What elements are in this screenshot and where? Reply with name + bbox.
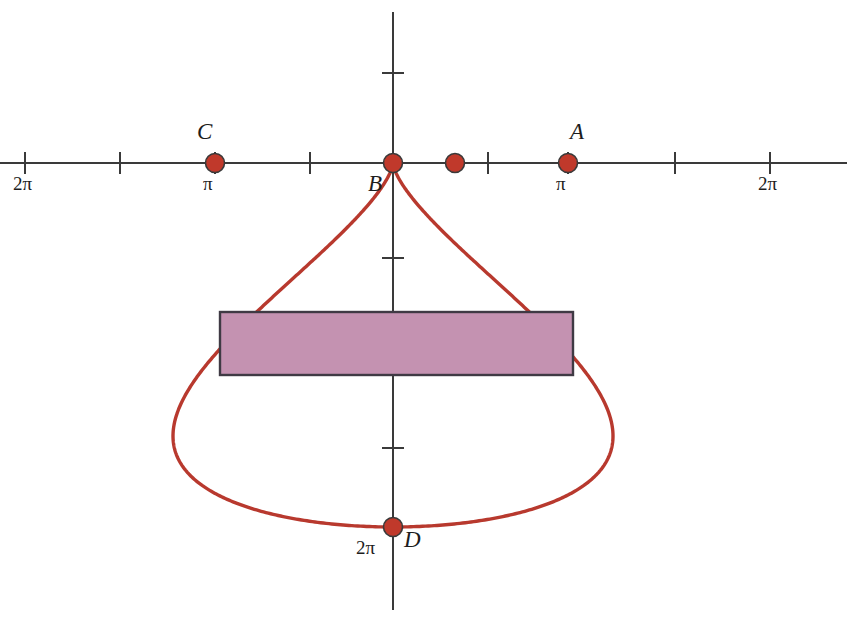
point-label-a: A [570, 120, 584, 143]
point-label-c: C [197, 120, 212, 143]
x-tick-label-3: 2π [758, 174, 777, 193]
x-tick-label-1: π [203, 174, 213, 193]
shaded-rectangle [220, 312, 573, 375]
point-c [206, 154, 225, 173]
point-a [559, 154, 578, 173]
x-tick-label-0: 2π [13, 174, 32, 193]
x-tick-label-2: π [556, 174, 566, 193]
point-d [384, 518, 403, 537]
point-unlabeled [446, 154, 465, 173]
cardioid-figure: CBAD2πππ2π2π [0, 0, 847, 642]
figure-canvas [0, 0, 847, 642]
point-label-d: D [404, 528, 421, 551]
y-tick-label-0: 2π [356, 538, 375, 557]
point-label-b: B [368, 172, 382, 195]
point-b [384, 154, 403, 173]
